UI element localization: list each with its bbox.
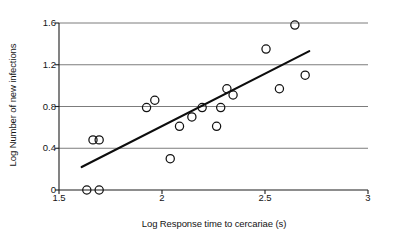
axis-tick-marks <box>55 23 368 194</box>
regression-fit-line <box>82 51 310 167</box>
data-point <box>229 91 237 99</box>
scatter-plot-figure: Log Number of new infections 00.40.81.21… <box>0 0 393 241</box>
data-point <box>223 85 231 93</box>
data-point <box>262 45 270 53</box>
data-point <box>95 136 103 144</box>
x-axis-tick-label: 2.5 <box>250 193 280 203</box>
x-axis-tick-label: 1.5 <box>44 193 74 203</box>
data-point <box>212 122 220 130</box>
x-axis-tick-labels: 1.522.53 <box>0 193 393 205</box>
data-point <box>275 85 283 93</box>
x-axis-title: Log Response time to cercariae (s) <box>59 218 369 229</box>
data-point <box>151 96 159 104</box>
x-axis-tick-label: 3 <box>353 193 383 203</box>
x-axis-tick-label: 2 <box>147 193 177 203</box>
data-point <box>291 21 299 29</box>
data-point <box>142 103 150 111</box>
data-points <box>83 21 310 194</box>
data-point <box>217 103 225 111</box>
data-point <box>188 113 196 121</box>
data-point <box>175 122 183 130</box>
data-point <box>166 155 174 163</box>
data-point <box>301 71 309 79</box>
